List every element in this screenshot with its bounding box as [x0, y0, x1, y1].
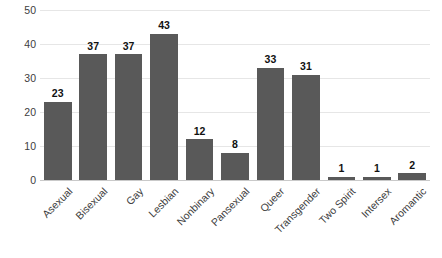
bar-chart: 01020304050 233737431283331112 AsexualBi…	[0, 0, 442, 258]
bar-value-label: 12	[194, 126, 206, 137]
bar-slot: 2	[398, 10, 426, 180]
bar	[363, 177, 391, 180]
bar	[115, 54, 143, 180]
bar-slot: 1	[363, 10, 391, 180]
bar-value-label: 8	[232, 139, 238, 150]
y-tick-label-10: 10	[2, 140, 36, 152]
bar	[221, 153, 249, 180]
bar-value-label: 37	[123, 41, 135, 52]
bar-slot: 23	[44, 10, 72, 180]
y-tick-label-0: 0	[2, 174, 36, 186]
y-tick-label-20: 20	[2, 106, 36, 118]
bar	[257, 68, 285, 180]
bar-value-label: 31	[300, 61, 312, 72]
bar-slot: 43	[150, 10, 178, 180]
bar	[328, 177, 356, 180]
bar-slot: 37	[115, 10, 143, 180]
bar-slot: 33	[257, 10, 285, 180]
bar-value-label: 1	[374, 163, 380, 174]
bar-value-label: 43	[158, 20, 170, 31]
x-axis-tick-labels: AsexualBisexualGayLesbianNonbinaryPansex…	[40, 181, 430, 257]
bar-value-label: 33	[265, 54, 277, 65]
bar	[186, 139, 214, 180]
bar	[79, 54, 107, 180]
bar	[398, 173, 426, 180]
bar	[150, 34, 178, 180]
y-tick-label-40: 40	[2, 38, 36, 50]
bar-value-label: 37	[87, 41, 99, 52]
y-tick-label-30: 30	[2, 72, 36, 84]
bar-slot: 8	[221, 10, 249, 180]
bar-slot: 37	[79, 10, 107, 180]
bar-value-label: 1	[338, 163, 344, 174]
bar-value-label: 23	[52, 88, 64, 99]
bar-value-label: 2	[409, 160, 415, 171]
y-axis: 01020304050	[0, 10, 36, 180]
bar-slot: 1	[328, 10, 356, 180]
bar	[44, 102, 72, 180]
plot-area: 233737431283331112	[40, 10, 430, 180]
bar	[292, 75, 320, 180]
bar-slot: 12	[186, 10, 214, 180]
bar-slot: 31	[292, 10, 320, 180]
y-tick-label-50: 50	[2, 4, 36, 16]
